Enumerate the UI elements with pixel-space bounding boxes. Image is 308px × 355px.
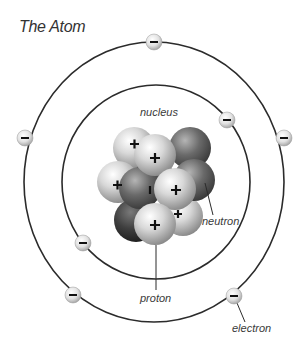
electron-particle: [226, 288, 242, 304]
electron-particle: [75, 235, 91, 251]
electron-label: electron: [232, 322, 271, 334]
electron-particle: [17, 130, 33, 146]
proton-label: proton: [140, 292, 171, 304]
electron-particle: [276, 130, 292, 146]
electron-particle: [219, 112, 235, 128]
nucleus-label: nucleus: [140, 106, 178, 118]
electron-leader: [237, 303, 245, 322]
electron-particle: [146, 34, 162, 50]
electron-particle: [65, 287, 81, 303]
neutron-label: neutron: [202, 215, 239, 227]
nucleus: [97, 127, 215, 245]
